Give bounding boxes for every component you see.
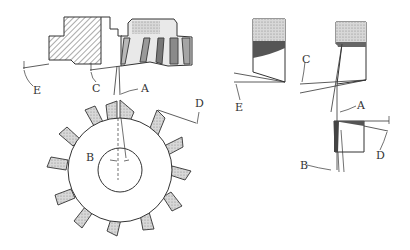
- label-e-section: E: [33, 85, 41, 96]
- milling-cutter-diagram: [0, 0, 410, 250]
- label-a-detail: A: [357, 100, 365, 111]
- label-c-section: C: [92, 83, 100, 94]
- label-e-detail: E: [235, 102, 243, 113]
- label-d-detail: D: [376, 150, 385, 161]
- bore-outline: [101, 17, 122, 36]
- label-b-face: B: [86, 152, 94, 163]
- cutter-bore: [98, 148, 142, 192]
- cutter-face-view: [47, 100, 199, 236]
- angle-line-e: [23, 64, 49, 68]
- tooth-detail-left: [234, 19, 285, 100]
- angle-line-a1: [114, 66, 117, 95]
- label-d-face: D: [195, 98, 204, 109]
- cutter-section-view: [23, 17, 192, 95]
- angle-line-a2: [119, 66, 120, 95]
- label-c-detail: C: [302, 54, 310, 65]
- label-a-section: A: [141, 83, 149, 94]
- hatched-section: [49, 17, 101, 64]
- label-b-detail: B: [300, 160, 308, 171]
